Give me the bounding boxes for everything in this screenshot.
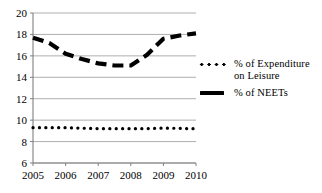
svg-text:14: 14 <box>16 71 28 83</box>
series-neets-line <box>33 33 196 65</box>
y-axis-tick-labels: 20181614121086 <box>16 7 28 169</box>
legend-item-expenditure: % of Expenditure on Leisure <box>196 58 322 81</box>
svg-text:2005: 2005 <box>22 169 45 181</box>
svg-text:20: 20 <box>16 7 28 19</box>
svg-text:2009: 2009 <box>152 169 175 181</box>
dotted-line-marker <box>196 58 230 71</box>
svg-text:18: 18 <box>16 28 28 40</box>
svg-text:2006: 2006 <box>55 169 78 181</box>
svg-text:12: 12 <box>16 93 27 105</box>
chart-legend: % of Expenditure on Leisure % of NEETs <box>196 58 322 106</box>
svg-text:8: 8 <box>22 136 28 148</box>
legend-item-neets: % of NEETs <box>196 87 322 100</box>
svg-text:2007: 2007 <box>87 169 110 181</box>
svg-text:16: 16 <box>16 50 28 62</box>
chart-container: 20181614121086 200520062007200820092010 … <box>0 0 322 193</box>
svg-text:2010: 2010 <box>185 169 208 181</box>
dashed-line-marker <box>196 87 230 100</box>
legend-label-neets: % of NEETs <box>234 87 288 99</box>
svg-text:6: 6 <box>22 157 28 169</box>
series-expenditure-leisure-line <box>33 128 196 129</box>
legend-label-expenditure: % of Expenditure on Leisure <box>234 58 310 81</box>
svg-text:2008: 2008 <box>120 169 143 181</box>
x-axis-tick-labels: 200520062007200820092010 <box>22 169 208 181</box>
svg-text:10: 10 <box>16 114 28 126</box>
